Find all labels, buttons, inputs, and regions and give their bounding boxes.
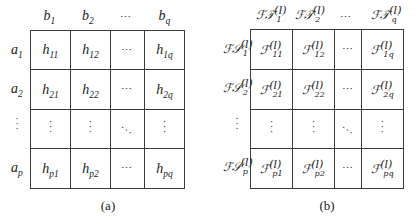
matrix-cell: h11 <box>31 31 71 70</box>
matrix-cell-ddots: ··· <box>110 110 144 149</box>
matrix-cell: h22 <box>70 70 110 110</box>
row-header: ℱ𝒮(l)2 <box>212 81 248 95</box>
row-header: a1 <box>6 42 28 58</box>
matrix-cell: ℱ(l)21 <box>251 70 293 110</box>
matrix-cell: ℱ(l)22 <box>293 70 335 110</box>
col-header: ℱ𝒯(l)2 <box>288 8 327 22</box>
matrix-cell: h12 <box>70 31 110 70</box>
matrix-cell: hpq <box>145 149 185 189</box>
matrix-cell: h1q <box>145 31 185 70</box>
matrix-cell-vdots: ··· <box>251 110 293 149</box>
matrix-cell-vdots: ··· <box>145 110 185 149</box>
row-header-vdots: ··· <box>226 116 248 136</box>
col-header: ℱ𝒯(l)1 <box>250 8 288 22</box>
matrix-cell: ℱ(l)11 <box>251 30 293 70</box>
matrix-cell-ellipsis: ⋯ <box>335 30 362 70</box>
matrix-grid-b: ℱ(l)11 ℱ(l)12 ⋯ ℱ(l)1q ℱ(l)21 ℱ(l)22 ⋯ ℱ… <box>250 29 404 189</box>
matrix-cell: hp2 <box>70 149 110 189</box>
matrix-cell-ellipsis: ⋯ <box>335 70 362 110</box>
row-header: ℱ𝒮(l)p <box>212 160 248 174</box>
caption-b: (b) <box>314 198 340 214</box>
col-header: b1 <box>30 8 69 24</box>
col-header: ℱ𝒯(l)q <box>365 8 403 22</box>
matrix-cell-vdots: ··· <box>31 110 71 149</box>
matrix-cell-ellipsis: ⋯ <box>110 70 144 110</box>
row-header: ℱ𝒮(l)1 <box>212 42 248 56</box>
col-header-ellipsis: ⋯ <box>327 11 365 24</box>
row-header: ap <box>6 160 28 176</box>
matrix-cell-vdots: ··· <box>70 110 110 149</box>
matrix-cell: ℱ(l)p2 <box>293 149 335 189</box>
matrix-cell: hp1 <box>31 149 71 189</box>
row-header: a2 <box>6 81 28 97</box>
matrix-cell-ellipsis: ⋯ <box>110 31 144 70</box>
matrix-cell: h2q <box>145 70 185 110</box>
matrix-grid-a: h11 h12 ⋯ h1q h21 h22 ⋯ h2q ··· ··· ··· … <box>30 30 185 189</box>
matrix-cell-vdots: ··· <box>361 110 403 149</box>
matrix-cell: ℱ(l)1q <box>361 30 403 70</box>
col-header-ellipsis: ⋯ <box>107 11 145 24</box>
matrix-cell-ellipsis: ⋯ <box>335 149 362 189</box>
col-header: b2 <box>69 8 107 24</box>
row-header-vdots: ··· <box>6 116 28 136</box>
matrix-cell-ellipsis: ⋯ <box>110 149 144 189</box>
caption-a: (a) <box>95 198 121 214</box>
matrix-cell: ℱ(l)12 <box>293 30 335 70</box>
matrix-cell: ℱ(l)pq <box>361 149 403 189</box>
col-header: bq <box>145 8 184 24</box>
matrix-cell: ℱ(l)p1 <box>251 149 293 189</box>
matrix-cell: ℱ(l)2q <box>361 70 403 110</box>
matrix-cell: h21 <box>31 70 71 110</box>
matrix-cell-ddots: ··· <box>335 110 362 149</box>
matrix-cell-vdots: ··· <box>293 110 335 149</box>
